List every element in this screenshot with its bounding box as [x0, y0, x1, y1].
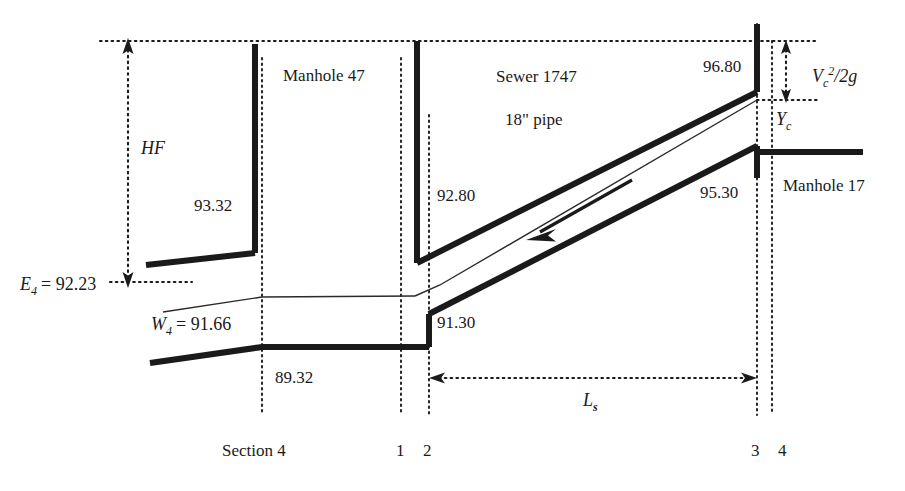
svg-text:W4= 91.66: W4= 91.66: [151, 314, 231, 338]
e4-symbol: E: [19, 274, 31, 294]
diagram-canvas: Manhole 47 Sewer 1747 18" pipe HF 93.32 …: [0, 0, 905, 491]
ls-subscript: s: [592, 400, 598, 414]
elevation-left-invert: 89.32: [275, 368, 313, 387]
yc-subscript: c: [786, 119, 792, 133]
sewer-name-label: Sewer 1747: [496, 67, 577, 86]
svg-text:Vc2/2g: Vc2/2g: [812, 64, 857, 90]
section-caption-1: 1: [396, 441, 405, 460]
left-pipe-crown: [146, 253, 255, 265]
manhole-47-label: Manhole 47: [283, 66, 365, 85]
left-pipe-invert: [150, 347, 429, 363]
elevation-left-crown: 93.32: [194, 196, 232, 215]
velocity-head-dimension: [781, 40, 791, 103]
section-caption-2: 2: [423, 441, 432, 460]
elevation-mh47-invert-out: 91.30: [437, 313, 475, 332]
yc-label-group: Yc: [776, 109, 792, 133]
hf-label: HF: [140, 138, 166, 158]
hf-dimension: [123, 38, 134, 288]
elevation-mh17-crown: 96.80: [703, 57, 741, 76]
e4-label-group: E4= 92.23: [19, 274, 96, 298]
hydraulic-profile-svg: Manhole 47 Sewer 1747 18" pipe HF 93.32 …: [0, 0, 905, 491]
e4-value: = 92.23: [41, 274, 96, 294]
svg-text:Yc: Yc: [776, 109, 792, 133]
section-caption-4-left: Section 4: [222, 441, 286, 460]
pipe-size-label: 18" pipe: [505, 110, 562, 129]
ls-label-group: Ls: [582, 390, 598, 414]
velocity-head-label-group: Vc2/2g: [812, 64, 857, 90]
manhole-17-label: Manhole 17: [783, 176, 865, 195]
vc-subscript: c: [823, 76, 829, 90]
ls-symbol: L: [582, 390, 593, 410]
section-caption-4-right: 4: [778, 441, 787, 460]
vc-rest: /2g: [833, 66, 857, 86]
sewer-crown-line: [417, 92, 757, 263]
elevation-mh17-invert: 95.30: [700, 183, 738, 202]
elevation-mh47-crown-out: 92.80: [437, 186, 475, 205]
section-caption-3: 3: [751, 441, 760, 460]
flow-direction-arrow: [526, 180, 632, 242]
water-surface-left: [163, 296, 415, 312]
svg-text:E4= 92.23: E4= 92.23: [19, 274, 96, 298]
w4-value: = 91.66: [176, 314, 231, 334]
e4-subscript: 4: [31, 284, 37, 298]
svg-text:Ls: Ls: [582, 390, 598, 414]
ls-dimension: [429, 373, 757, 384]
w4-subscript: 4: [166, 324, 172, 338]
w4-label-group: W4= 91.66: [151, 314, 231, 338]
